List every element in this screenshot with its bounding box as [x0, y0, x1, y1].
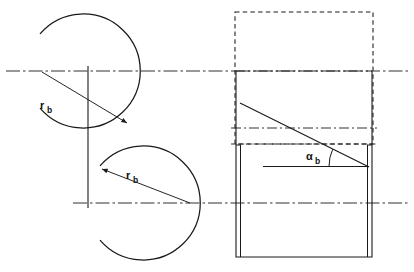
radius-label-lower: r b	[126, 169, 138, 185]
radius-label-upper-subscript: b	[47, 105, 52, 115]
helix-line	[240, 103, 369, 167]
body-outline-solid	[236, 71, 372, 257]
radius-label-upper-symbol: r	[40, 99, 45, 111]
angle-label-subscript: b	[315, 156, 320, 166]
radius-leader-upper	[42, 72, 127, 123]
angle-label-symbol: α	[306, 150, 313, 162]
radius-leader-lower	[102, 169, 190, 203]
technical-diagram: r b r b α b	[0, 0, 414, 272]
radius-label-lower-subscript: b	[133, 175, 138, 185]
radius-label-upper: r b	[40, 99, 52, 115]
construction-rect-dashed	[235, 12, 373, 144]
angle-arc	[329, 149, 333, 166]
radius-label-lower-symbol: r	[126, 169, 131, 181]
diagram-canvas: r b r b α b	[0, 0, 414, 272]
angle-label: α b	[306, 150, 320, 166]
